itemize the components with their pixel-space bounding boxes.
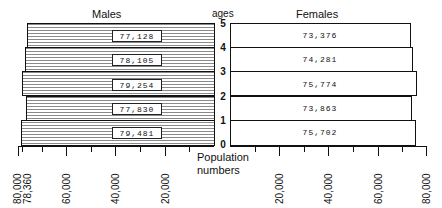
x-tick-label: 78,360 [22,173,33,204]
male-x-axis [18,146,214,147]
x-tick-label: 40,000 [323,173,334,204]
x-tick-label: 40,000 [110,173,121,204]
male-label-age-1-2: 77,830 [112,103,162,115]
female-label-age-1-2: 73,863 [280,104,360,113]
tick [402,146,403,152]
x-tick-label: 20,000 [274,173,285,204]
male-label-age-2-3: 79,254 [112,79,162,91]
age-tick-1: 1 [218,115,228,126]
x-tick-label: 20,000 [160,173,171,204]
age-tick-4: 4 [218,42,228,53]
females-title: Females [296,8,338,20]
female-label-age-2-3: 75,774 [280,80,360,89]
x-tick-label: 80,000 [421,173,432,204]
age-tick-3: 3 [218,66,228,77]
tick [22,146,23,152]
age-tick-5: 5 [218,18,228,29]
x-axis-title: Population numbers [197,151,267,177]
tick [115,146,116,156]
tick [165,146,166,156]
x-tick-label: 60,000 [61,173,72,204]
tick [426,146,427,156]
male-label-age-0-1: 79,481 [112,127,162,139]
tick [140,146,141,152]
female-label-age-3-4: 74,281 [280,55,360,64]
tick [378,146,379,156]
tick [189,146,190,152]
tick [18,146,19,156]
tick [42,146,43,152]
female-label-age-0-1: 75,702 [280,128,360,137]
female-label-age-4-5: 73,376 [280,31,360,40]
age-tick-0: 0 [218,139,228,150]
male-label-age-4-5: 77,128 [112,30,162,42]
tick [304,146,305,152]
x-tick-label: 60,000 [373,173,384,204]
male-label-age-3-4: 78,105 [112,54,162,66]
tick [279,146,280,156]
males-title: Males [92,8,121,20]
tick [66,146,67,156]
tick [353,146,354,152]
tick [91,146,92,152]
age-tick-2: 2 [218,91,228,102]
tick [328,146,329,156]
